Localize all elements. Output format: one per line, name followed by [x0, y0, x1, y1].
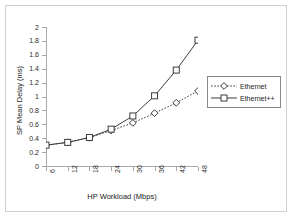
- x-tick-label: 12: [71, 165, 78, 173]
- series-layer: [46, 27, 198, 166]
- series-line-ethernetplusplus: [46, 40, 198, 145]
- y-tick-label: 0.8: [29, 107, 39, 114]
- data-point-marker: [173, 99, 180, 106]
- data-point-marker: [195, 88, 198, 95]
- x-tick-mark: [133, 167, 134, 171]
- y-tick-label: 1.6: [29, 51, 39, 58]
- x-tick-mark: [46, 167, 47, 171]
- x-axis-line: [46, 166, 198, 167]
- legend-marker-diamond-dotted: [211, 81, 237, 91]
- y-tick-label: 0.6: [29, 121, 39, 128]
- data-point-marker: [195, 37, 198, 43]
- x-tick-label: 42: [179, 165, 186, 173]
- x-tick-label: 18: [92, 165, 99, 173]
- y-axis-label: SP Mean Delay (ms): [15, 46, 24, 156]
- x-tick-mark: [155, 167, 156, 171]
- x-axis-label: HP Workload (Mbps): [46, 192, 198, 201]
- data-point-marker: [152, 93, 158, 99]
- x-tick-label: 30: [136, 165, 143, 173]
- data-point-marker: [129, 120, 136, 127]
- x-tick-mark: [111, 167, 112, 171]
- legend-label-ethernet-plus-plus: Ethernet++: [237, 95, 275, 102]
- y-tick-label: 1.2: [29, 79, 39, 86]
- x-tick-mark: [198, 167, 199, 171]
- x-tick-label: 24: [114, 165, 121, 173]
- y-tick-label: 1.4: [29, 65, 39, 72]
- series-line-ethernet: [46, 91, 198, 145]
- data-point-marker: [151, 110, 158, 117]
- data-point-marker: [130, 113, 136, 119]
- plot-area: [46, 27, 198, 166]
- data-point-marker: [46, 142, 49, 148]
- x-tick-mark: [89, 167, 90, 171]
- legend: Ethernet Ethernet++: [207, 76, 281, 108]
- x-tick-label: 48: [201, 165, 208, 173]
- y-tick-label: 1.8: [29, 37, 39, 44]
- y-tick-label: 0.4: [29, 135, 39, 142]
- legend-marker-square-solid: [211, 93, 237, 103]
- y-tick-label: 0: [35, 163, 39, 170]
- chart-figure: 00.20.40.60.811.21.41.61.82 612182430364…: [0, 0, 292, 217]
- data-point-marker: [86, 135, 92, 141]
- y-tick-label: 0.2: [29, 149, 39, 156]
- data-point-marker: [108, 126, 114, 132]
- data-point-marker: [173, 67, 179, 73]
- x-tick-label: 6: [49, 169, 56, 173]
- x-tick-mark: [68, 167, 69, 171]
- y-tick-label: 2: [35, 24, 39, 31]
- legend-item-ethernet-plus-plus[interactable]: Ethernet++: [211, 92, 277, 104]
- legend-item-ethernet[interactable]: Ethernet: [211, 80, 277, 92]
- legend-label-ethernet: Ethernet: [237, 83, 266, 90]
- x-tick-mark: [176, 167, 177, 171]
- y-tick-label: 1: [35, 93, 39, 100]
- data-point-marker: [65, 139, 71, 145]
- x-tick-label: 36: [158, 165, 165, 173]
